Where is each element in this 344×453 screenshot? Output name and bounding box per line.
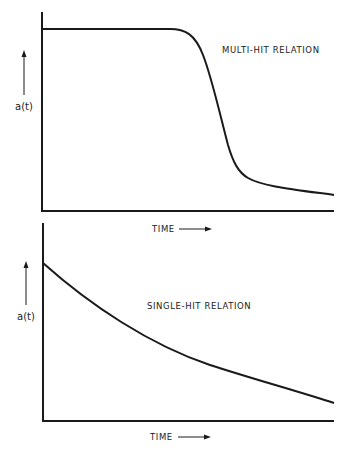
- top-y-arrow-icon: [22, 50, 27, 95]
- top-x-label: TIME: [151, 224, 175, 234]
- top-y-label: a(t): [15, 101, 33, 112]
- figure: a(t) MULTI-HIT RELATION TIME a(t) SINGLE…: [0, 0, 344, 453]
- top-chart: a(t) MULTI-HIT RELATION TIME: [15, 12, 334, 234]
- top-x-arrow-icon: [179, 227, 212, 232]
- single-hit-curve: [43, 263, 334, 403]
- bottom-y-arrow-icon: [24, 261, 29, 305]
- top-chart-title: MULTI-HIT RELATION: [222, 45, 320, 55]
- bottom-y-label: a(t): [17, 311, 35, 322]
- bottom-x-label: TIME: [149, 432, 173, 442]
- bottom-chart: a(t) SINGLE-HIT RELATION TIME: [17, 223, 334, 442]
- bottom-chart-title: SINGLE-HIT RELATION: [147, 301, 251, 311]
- bottom-x-arrow-icon: [178, 435, 211, 440]
